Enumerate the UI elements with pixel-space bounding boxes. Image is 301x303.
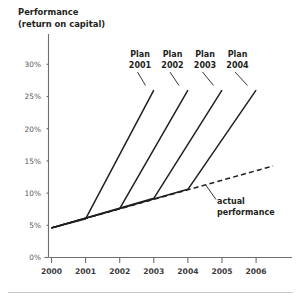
y-tick-label-25: 25% [25, 92, 41, 101]
x-tick-label-2001: 2001 [75, 267, 96, 276]
plan-2001-callout: Plan 2001 [129, 50, 152, 70]
actual-performance-label-line2: performance [217, 208, 275, 217]
chart-subtitle: (return on capital) [18, 19, 105, 29]
plan-2001-label-line1: Plan [130, 50, 150, 59]
plan-2003-leader [203, 72, 214, 86]
plan-2004-callout: Plan 2004 [226, 50, 249, 70]
plan-2003-callout: Plan 2003 [194, 50, 216, 70]
plan-2002-label-line1: Plan [163, 50, 183, 59]
plan-2001-leader [138, 72, 146, 86]
y-tick-label-30: 30% [25, 60, 41, 69]
plan-2004-label-line1: Plan [228, 50, 248, 59]
plan-2003-label-line2: 2003 [194, 61, 216, 70]
x-tick-label-2000: 2000 [41, 267, 62, 276]
performance-plan-chart: Performance (return on capital) 0% 5% 10… [0, 0, 301, 303]
y-tick-label-0: 0% [29, 253, 41, 262]
plan-2002-leader [170, 72, 179, 86]
plan-2004-label-line2: 2004 [226, 61, 249, 70]
plan-2002-callout: Plan 2002 [161, 50, 183, 70]
chart-figure: Performance (return on capital) 0% 5% 10… [0, 0, 301, 303]
y-tick-label-10: 10% [25, 189, 41, 198]
actual-performance-label-line1: actual [217, 197, 245, 206]
plan-2002-label-line2: 2002 [161, 61, 183, 70]
x-tick-label-2004: 2004 [177, 267, 198, 276]
plan-2002-line [52, 90, 188, 228]
y-tick-label-5: 5% [29, 221, 41, 230]
x-tick-label-2003: 2003 [143, 267, 164, 276]
y-tick-label-15: 15% [25, 157, 41, 166]
plan-2003-label-line1: Plan [195, 50, 215, 59]
actual-performance-leader [205, 184, 216, 200]
y-axis-ticks: 0% 5% 10% 15% 20% 25% 30% [25, 60, 49, 262]
chart-title: Performance [18, 7, 79, 17]
actual-performance-callout: actual performance [217, 197, 275, 217]
plan-2003-line [52, 90, 223, 228]
x-tick-label-2002: 2002 [109, 267, 130, 276]
plan-2001-label-line2: 2001 [129, 61, 152, 70]
plan-2001-line [52, 90, 154, 228]
y-tick-label-20: 20% [25, 125, 41, 134]
x-tick-label-2006: 2006 [246, 267, 267, 276]
plan-2004-leader [235, 72, 248, 86]
x-tick-label-2005: 2005 [211, 267, 232, 276]
x-axis-ticks: 2000 2001 2002 2003 2004 2005 2006 [41, 258, 267, 277]
